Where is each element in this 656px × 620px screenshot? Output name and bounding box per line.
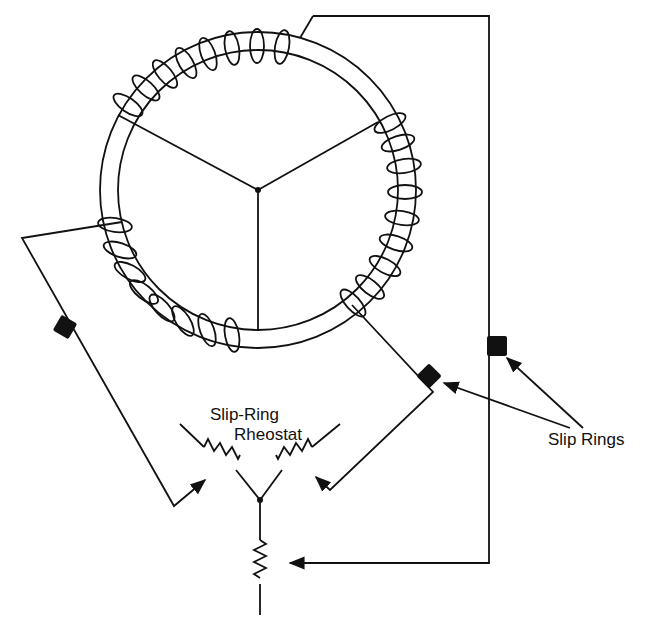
coil-top	[110, 16, 313, 120]
wire-middle	[316, 305, 433, 490]
rheostat-right-lead	[312, 424, 340, 447]
coil-left	[97, 216, 242, 353]
rheostat-junction-dot	[257, 497, 263, 503]
slip-ring-middle	[416, 363, 441, 388]
rheostat-label-line2: Rheostat	[234, 425, 302, 445]
circuit-diagram	[0, 0, 656, 620]
slip-rings-label: Slip Rings	[548, 430, 625, 450]
coil-right	[336, 109, 422, 320]
pointer-slip-ring-right	[507, 358, 583, 428]
pointer-slip-ring-middle	[444, 383, 570, 428]
diagram-canvas: Slip-Ring Rheostat Slip Rings	[0, 0, 656, 620]
spoke-right	[258, 122, 378, 190]
spoke-left	[118, 115, 258, 190]
rheostat-left-lead	[180, 424, 204, 447]
wye-center-dot	[255, 187, 261, 193]
wire-left	[22, 222, 205, 506]
slip-ring-left	[53, 315, 78, 340]
rheostat-bottom	[254, 540, 266, 578]
rheostat-label-line1: Slip-Ring	[210, 405, 279, 425]
slip-ring-right	[487, 336, 507, 356]
